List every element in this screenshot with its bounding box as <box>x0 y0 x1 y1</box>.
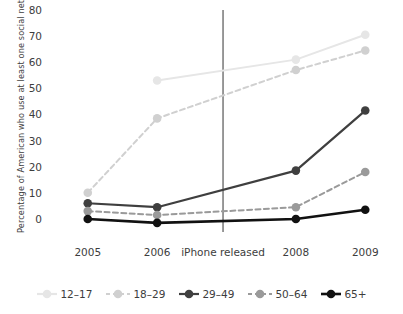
series-50-64 <box>83 168 369 220</box>
x-tick-label: 2008 <box>283 246 310 258</box>
data-point <box>292 166 301 175</box>
series-line <box>88 50 366 192</box>
data-point <box>83 215 92 224</box>
legend-label: 18–29 <box>133 288 165 300</box>
chart-legend: 12–1718–2929–4950–6465+ <box>0 288 403 300</box>
x-tick-label: 2005 <box>74 246 101 258</box>
y-tick-label: 0 <box>35 213 42 225</box>
y-tick-label: 20 <box>29 161 42 173</box>
data-point <box>153 114 162 123</box>
legend-item[interactable]: 12–17 <box>36 288 92 300</box>
y-tick-label: 80 <box>29 4 42 16</box>
legend-swatch-icon <box>105 288 131 300</box>
data-point <box>292 203 301 212</box>
legend-label: 50–64 <box>275 288 307 300</box>
legend-label: 29–49 <box>202 288 234 300</box>
data-point <box>83 189 92 198</box>
series-line <box>157 35 365 81</box>
legend-swatch-icon <box>178 288 200 300</box>
chart-container: Percentage of American who use at least … <box>0 0 403 314</box>
chart-svg <box>48 0 403 250</box>
legend-item[interactable]: 65+ <box>320 288 366 300</box>
x-tick-label: 2009 <box>352 246 379 258</box>
y-tick-label: 10 <box>29 187 42 199</box>
data-point <box>153 76 162 85</box>
annotation-label-iphone-released: iPhone released <box>181 246 265 258</box>
data-point <box>153 219 162 228</box>
y-tick-label: 40 <box>29 108 42 120</box>
data-point <box>292 215 301 224</box>
legend-swatch-icon <box>36 288 58 300</box>
plot-area: 01020304050607080 2005200620082009 iPhon… <box>48 0 403 250</box>
data-point <box>361 206 370 215</box>
y-tick-label: 60 <box>29 56 42 68</box>
data-point <box>292 66 301 75</box>
data-point <box>83 199 92 208</box>
legend-swatch-icon <box>247 288 273 300</box>
series-29-49 <box>83 106 369 211</box>
legend-item[interactable]: 18–29 <box>105 288 165 300</box>
data-point <box>361 31 370 40</box>
y-tick-label: 70 <box>29 30 42 42</box>
data-point <box>153 211 162 220</box>
series-18-29 <box>83 46 369 197</box>
x-tick-label: 2006 <box>144 246 171 258</box>
data-point <box>83 207 92 216</box>
legend-label: 12–17 <box>60 288 92 300</box>
y-tick-label: 30 <box>29 135 42 147</box>
series-line <box>88 172 366 215</box>
legend-swatch-icon <box>320 288 342 300</box>
legend-item[interactable]: 50–64 <box>247 288 307 300</box>
data-point <box>361 106 370 115</box>
data-point <box>153 203 162 212</box>
y-axis-title-text: Percentage of American who use at least … <box>16 18 27 233</box>
data-point <box>361 168 370 177</box>
series-65+ <box>83 206 369 228</box>
series-12-17 <box>153 31 370 85</box>
data-point <box>292 55 301 64</box>
y-tick-label: 50 <box>29 82 42 94</box>
data-point <box>361 46 370 55</box>
legend-item[interactable]: 29–49 <box>178 288 234 300</box>
legend-label: 65+ <box>344 288 366 300</box>
